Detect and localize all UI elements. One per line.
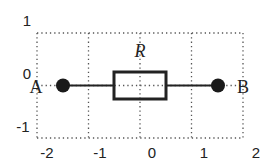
x-tick-0: 0 [148, 144, 156, 161]
resistor-label: R [134, 41, 146, 61]
y-tick-0: 0 [23, 65, 31, 82]
y-tick-1: 1 [23, 12, 31, 29]
node-b-dot [211, 79, 225, 93]
node-a-label: A [30, 77, 43, 97]
node-a-dot [56, 79, 70, 93]
y-tick-neg1: -1 [16, 118, 29, 135]
circuit-diagram: A B R 1 0 -1 -2 -1 0 1 2 [0, 0, 264, 162]
x-tick-neg2: -2 [40, 144, 53, 161]
x-tick-2: 2 [252, 144, 260, 161]
x-tick-neg1: -1 [93, 144, 106, 161]
x-tick-1: 1 [200, 144, 208, 161]
node-b-label: B [237, 77, 249, 97]
